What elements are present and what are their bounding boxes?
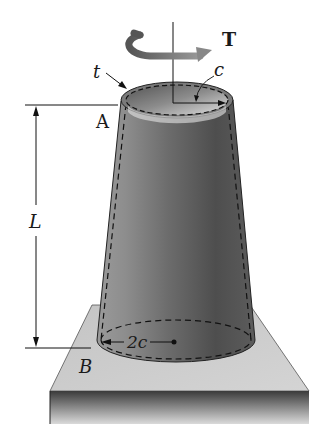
label-length: L	[28, 210, 42, 232]
label-torque: T	[222, 28, 236, 50]
label-thickness: t	[93, 61, 101, 82]
thickness-indicator	[106, 73, 127, 89]
label-radius: c	[214, 59, 224, 80]
torque-arrow	[129, 33, 212, 62]
torque-arrowhead-icon	[196, 47, 212, 62]
dim-arrow-up	[33, 106, 39, 116]
dim-arrow-down	[33, 337, 39, 347]
tapered-shaft-diagram: T t c A L B 2c	[0, 0, 332, 442]
tapered-shaft	[97, 82, 255, 362]
label-diameter-text: 2c	[126, 332, 148, 352]
label-end-a: A	[95, 111, 110, 132]
label-diameter: 2c	[126, 332, 148, 352]
label-end-b: B	[78, 356, 92, 377]
center-dot	[172, 340, 177, 345]
plate-front-face	[50, 391, 309, 424]
thickness-arrowhead	[118, 81, 127, 89]
